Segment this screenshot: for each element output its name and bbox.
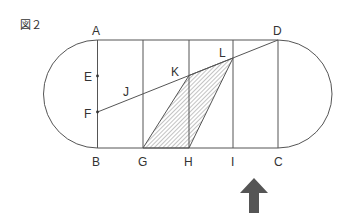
label-G: G	[138, 155, 147, 169]
label-H: H	[184, 155, 193, 169]
point-E-dot	[96, 75, 99, 78]
label-K: K	[171, 65, 179, 79]
left-semicircle	[44, 40, 98, 148]
up-arrow-icon	[240, 178, 268, 213]
label-I: I	[231, 155, 234, 169]
label-A: A	[92, 24, 100, 38]
label-D: D	[273, 24, 282, 38]
label-F: F	[84, 107, 91, 121]
right-semicircle	[278, 40, 332, 148]
geometry-figure: A D E F J K L B G H I C	[0, 0, 349, 213]
label-B: B	[92, 155, 100, 169]
label-L: L	[219, 46, 226, 60]
label-C: C	[274, 155, 283, 169]
label-J: J	[123, 85, 129, 99]
point-F-dot	[96, 111, 99, 114]
label-E: E	[84, 70, 92, 84]
shaded-region	[143, 58, 233, 148]
